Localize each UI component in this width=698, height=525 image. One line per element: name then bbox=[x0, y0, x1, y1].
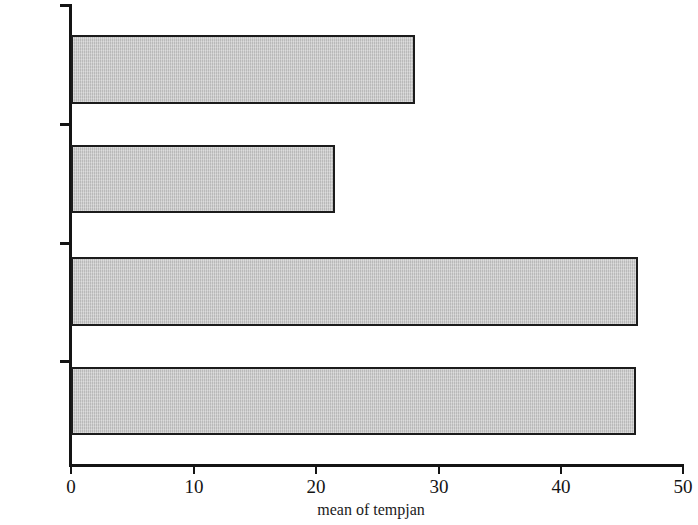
y-axis-tick bbox=[60, 242, 71, 245]
x-axis-title: mean of tempjan bbox=[0, 500, 698, 519]
bar-west bbox=[71, 367, 636, 435]
bar-n-cntrl bbox=[71, 145, 335, 213]
bar-ne bbox=[71, 35, 415, 104]
x-axis-tick-0 bbox=[70, 464, 72, 474]
bar-south bbox=[71, 257, 638, 326]
x-axis-label-40: 40 bbox=[531, 476, 591, 498]
x-axis-label-50: 50 bbox=[653, 476, 698, 498]
x-axis-tick-20 bbox=[315, 464, 317, 474]
x-axis-line bbox=[69, 464, 684, 467]
y-axis-tick bbox=[60, 4, 71, 7]
x-axis-label-10: 10 bbox=[164, 476, 224, 498]
x-axis-tick-30 bbox=[438, 464, 440, 474]
x-axis-tick-10 bbox=[193, 464, 195, 474]
x-axis-tick-50 bbox=[682, 464, 684, 474]
x-axis-label-30: 30 bbox=[409, 476, 469, 498]
y-axis-tick bbox=[60, 360, 71, 363]
bar-chart: NE N Cntrl South West 0 10 20 30 40 50 m… bbox=[0, 0, 698, 525]
x-axis-label-0: 0 bbox=[41, 476, 101, 498]
x-axis-tick-40 bbox=[560, 464, 562, 474]
x-axis-label-20: 20 bbox=[286, 476, 346, 498]
y-axis-tick bbox=[60, 123, 71, 126]
